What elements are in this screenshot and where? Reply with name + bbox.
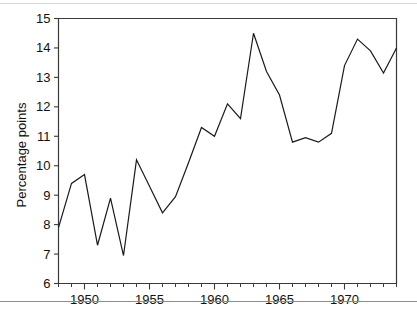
y-tick-label: 13 xyxy=(36,70,50,85)
y-tick-label: 9 xyxy=(43,188,50,203)
x-tick-label: 1950 xyxy=(70,292,99,307)
line-chart: Percentage points 6789101112131415 19501… xyxy=(0,0,417,318)
x-axis-minor-ticks xyxy=(59,284,397,290)
x-axis-ticks: 19501955196019651970 xyxy=(70,292,359,307)
y-tick-label: 7 xyxy=(43,247,50,262)
page-bottom-rule xyxy=(0,301,417,302)
y-axis-ticks: 6789101112131415 xyxy=(36,11,58,291)
y-axis-label-group: Percentage points xyxy=(14,102,29,207)
page-caption-fragment xyxy=(0,306,417,318)
plot-frame xyxy=(59,19,397,284)
y-tick-label: 14 xyxy=(36,40,50,55)
y-tick-label: 12 xyxy=(36,99,50,114)
y-tick-label: 11 xyxy=(37,129,51,144)
figure-container: Percentage points 6789101112131415 19501… xyxy=(0,0,417,318)
y-tick-label: 6 xyxy=(43,276,50,291)
data-line-percentage-points xyxy=(59,33,397,255)
x-tick-label: 1955 xyxy=(135,292,164,307)
y-axis-label: Percentage points xyxy=(14,102,29,207)
y-tick-label: 10 xyxy=(36,158,50,173)
x-tick-label: 1965 xyxy=(265,292,294,307)
y-tick-label: 15 xyxy=(36,11,50,26)
y-tick-label: 8 xyxy=(43,217,50,232)
data-series-group xyxy=(59,33,397,255)
x-tick-label: 1960 xyxy=(200,292,229,307)
x-tick-label: 1970 xyxy=(330,292,359,307)
